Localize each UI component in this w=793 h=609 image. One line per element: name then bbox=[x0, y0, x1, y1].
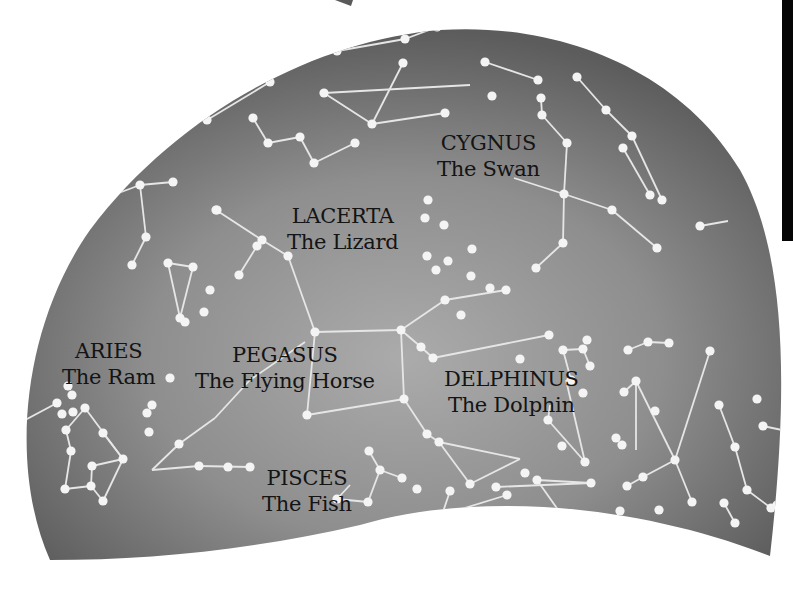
star-icon bbox=[627, 131, 636, 140]
star-icon bbox=[585, 361, 594, 370]
star-icon bbox=[57, 409, 66, 418]
star-icon bbox=[654, 505, 663, 514]
star-chart bbox=[0, 0, 793, 609]
constellation-line bbox=[563, 194, 564, 243]
star-icon bbox=[168, 177, 177, 186]
star-icon bbox=[144, 427, 153, 436]
star-icon bbox=[400, 34, 409, 43]
star-icon bbox=[332, 46, 341, 55]
label-cygnus: CYGNUS The Swan bbox=[437, 130, 540, 182]
star-icon bbox=[466, 271, 475, 280]
star-icon bbox=[719, 498, 728, 507]
star-icon bbox=[68, 407, 77, 416]
star-icon bbox=[611, 433, 620, 442]
star-icon bbox=[440, 295, 449, 304]
star-icon bbox=[582, 335, 591, 344]
star-icon bbox=[399, 394, 408, 403]
star-icon bbox=[501, 285, 510, 294]
star-icon bbox=[163, 258, 172, 267]
star-icon bbox=[687, 497, 696, 506]
star-icon bbox=[199, 307, 208, 316]
star-icon bbox=[619, 387, 628, 396]
star-icon bbox=[319, 88, 328, 97]
constellation-name: PEGASUS bbox=[195, 342, 375, 368]
star-icon bbox=[456, 310, 465, 319]
star-icon bbox=[248, 113, 257, 122]
star-icon bbox=[638, 472, 647, 481]
star-icon bbox=[562, 138, 571, 147]
star-icon bbox=[428, 353, 437, 362]
star-icon bbox=[295, 132, 304, 141]
star-icon bbox=[397, 3, 406, 12]
star-icon bbox=[742, 485, 751, 494]
star-icon bbox=[67, 390, 76, 399]
star-icon bbox=[257, 235, 266, 244]
star-icon bbox=[578, 344, 587, 353]
star-icon bbox=[398, 58, 407, 67]
star-icon bbox=[532, 475, 541, 484]
star-icon bbox=[147, 400, 156, 409]
star-icon bbox=[578, 388, 587, 397]
star-icon bbox=[142, 408, 151, 417]
adjacent-night-sky-strip bbox=[782, 0, 793, 241]
star-icon bbox=[572, 72, 581, 81]
star-icon bbox=[537, 110, 546, 119]
star-icon bbox=[487, 91, 496, 100]
star-icon bbox=[437, 510, 446, 519]
star-icon bbox=[86, 481, 95, 490]
star-icon bbox=[730, 442, 739, 451]
star-icon bbox=[175, 313, 184, 322]
star-icon bbox=[705, 346, 714, 355]
star-icon bbox=[467, 244, 476, 253]
star-icon bbox=[515, 354, 524, 363]
star-icon bbox=[663, 540, 672, 549]
star-icon bbox=[580, 457, 589, 466]
star-icon bbox=[98, 428, 107, 437]
star-icon bbox=[422, 429, 431, 438]
star-icon bbox=[363, 497, 372, 506]
star-icon bbox=[556, 509, 565, 518]
constellation-common-name: The Ram bbox=[62, 364, 155, 390]
star-icon bbox=[61, 425, 70, 434]
star-icon bbox=[194, 461, 203, 470]
star-icon bbox=[118, 454, 127, 463]
star-icon bbox=[223, 462, 232, 471]
star-icon bbox=[652, 243, 661, 252]
star-icon bbox=[695, 221, 704, 230]
star-icon bbox=[586, 478, 595, 487]
star-icon bbox=[657, 195, 666, 204]
star-icon bbox=[302, 410, 311, 419]
star-icon bbox=[631, 376, 640, 385]
star-icon bbox=[623, 345, 632, 354]
star-icon bbox=[544, 330, 553, 339]
label-lacerta: LACERTA The Lizard bbox=[287, 203, 398, 255]
star-icon bbox=[174, 439, 183, 448]
star-icon bbox=[234, 270, 243, 279]
star-icon bbox=[396, 325, 405, 334]
star-icon bbox=[431, 265, 440, 274]
star-icon bbox=[265, 77, 274, 86]
constellation-common-name: The Lizard bbox=[287, 229, 398, 255]
star-icon bbox=[98, 496, 107, 505]
label-pegasus: PEGASUS The Flying Horse bbox=[195, 342, 375, 394]
star-icon bbox=[420, 213, 429, 222]
star-icon bbox=[412, 484, 421, 493]
star-icon bbox=[664, 338, 673, 347]
star-icon bbox=[502, 490, 511, 499]
star-icon bbox=[520, 468, 529, 477]
constellation-line bbox=[640, 540, 668, 545]
star-icon bbox=[443, 256, 452, 265]
star-icon bbox=[66, 446, 75, 455]
star-icon bbox=[423, 195, 432, 204]
star-icon bbox=[670, 455, 679, 464]
label-delphinus: DELPHINUS The Dolphin bbox=[444, 366, 579, 418]
star-icon bbox=[60, 484, 69, 493]
star-icon bbox=[617, 440, 626, 449]
constellation-name: DELPHINUS bbox=[444, 366, 579, 392]
star-icon bbox=[533, 75, 542, 84]
star-icon bbox=[263, 138, 272, 147]
star-icon bbox=[723, 116, 732, 125]
star-icon bbox=[416, 342, 425, 351]
star-icon bbox=[536, 93, 545, 102]
star-icon bbox=[52, 398, 61, 407]
